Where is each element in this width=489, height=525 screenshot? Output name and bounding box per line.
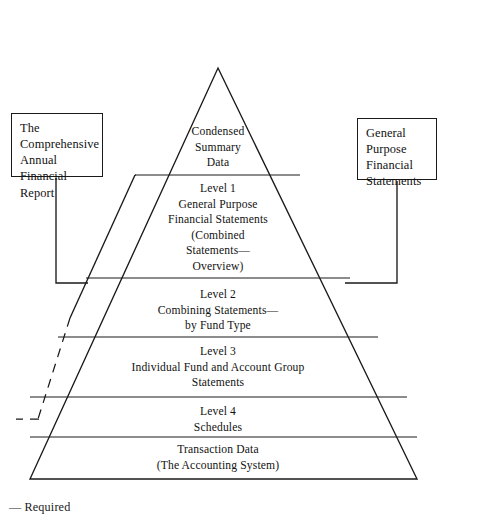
tier-label-level-2: Level 2 Combining Statements— by Fund Ty… [100, 287, 336, 334]
financial-reporting-pyramid-diagram: The Comprehensive Annual Financial Repor… [0, 0, 489, 525]
tier-label-level-1: Level 1 General Purpose Financial Statem… [118, 181, 318, 274]
tier-label-transaction-data: Transaction Data (The Accounting System) [92, 442, 344, 473]
cafr-scope-line-dashed [38, 318, 70, 419]
left-callout-connector [56, 178, 88, 283]
callout-general-purpose-financial-statements: General Purpose Financial Statements [357, 118, 437, 180]
tier-label-condensed-summary-data: Condensed Summary Data [148, 124, 288, 171]
callout-comprehensive-annual-financial-report: The Comprehensive Annual Financial Repor… [11, 113, 103, 177]
tier-label-level-3: Level 3 Individual Fund and Account Grou… [74, 344, 362, 391]
footnote-required: — Required [9, 500, 70, 515]
tier-label-level-4: Level 4 Schedules [110, 404, 326, 435]
right-callout-connector [345, 181, 397, 283]
